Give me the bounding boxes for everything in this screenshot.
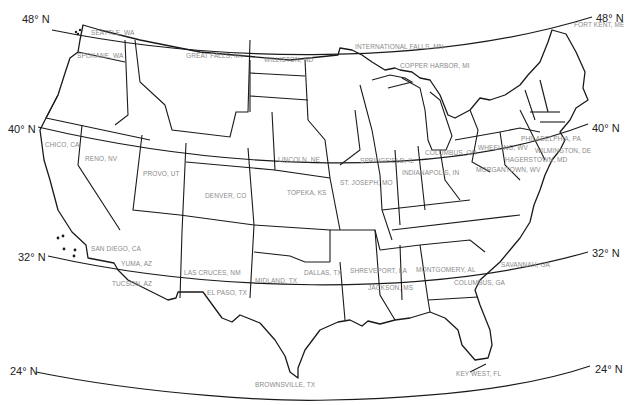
upper-peninsula <box>372 75 412 88</box>
city-label: WILMINGTON, DE <box>535 147 591 154</box>
city-label: GREAT FALLS, MT <box>186 52 244 59</box>
city-label: BROWNSVILLE, TX <box>255 381 315 388</box>
city-label: SPOKANE, WA <box>77 52 123 59</box>
latitude-label-left: 24° N <box>10 365 38 377</box>
city-label: SHREVEPORT, LA <box>350 267 407 274</box>
latitude-label-left: 48° N <box>22 13 50 25</box>
us-outline <box>40 25 588 378</box>
city-label: KEY WEST, FL <box>456 370 501 377</box>
city-label: TUCSON, AZ <box>112 280 152 287</box>
city-label: SEATTLE, WA <box>91 29 134 36</box>
city-label: WHEELING, WV <box>478 144 528 151</box>
city-label: MORGANTOWN, WV <box>476 166 540 173</box>
city-label: JACKSON, MS <box>368 284 413 291</box>
state-borders <box>46 40 565 320</box>
city-label: DENVER, CO <box>205 192 246 199</box>
city-label: FORT KENT, ME <box>574 21 625 28</box>
city-label: SAVANNAH, GA <box>501 261 550 268</box>
channel-islands <box>57 235 77 258</box>
michigan-outline <box>402 78 452 150</box>
us-map <box>0 0 631 405</box>
latitude-label-right: 24° N <box>595 363 623 375</box>
city-label: SAN DIEGO, CA <box>91 245 141 252</box>
latitude-label-left: 40° N <box>8 123 36 135</box>
city-label: TOPEKA, KS <box>287 189 327 196</box>
city-label: RENO, NV <box>85 155 117 162</box>
city-label: CHICO, CA <box>45 141 80 148</box>
city-label: COPPER HARBOR, MI <box>400 62 470 69</box>
city-label: ST. JOSEPH, MO <box>340 179 393 186</box>
city-label: COLUMBUS, GA <box>454 279 505 286</box>
latitude-label-left: 32° N <box>18 251 46 263</box>
city-label: SPRINGFIELD, IL <box>360 157 414 164</box>
city-label: LINCOLN, NE <box>278 156 320 163</box>
city-label: WILLISTON, ND <box>264 56 313 63</box>
city-label: COLUMBUS, OH <box>425 149 476 156</box>
latitude-label-right: 40° N <box>592 122 620 134</box>
city-label: PROVO, UT <box>143 170 180 177</box>
city-label: INTERNATIONAL FALLS, MN <box>355 43 444 50</box>
city-label: MIDLAND, TX <box>255 277 297 284</box>
city-label: PHILADELPHIA, PA <box>521 135 581 142</box>
city-label: INDIANAPOLIS, IN <box>402 169 459 176</box>
city-label: EL PASO, TX <box>207 289 247 296</box>
city-label: LAS CRUCES, NM <box>184 269 241 276</box>
city-label: DALLAS, TX <box>304 269 342 276</box>
city-label: YUMA, AZ <box>121 260 152 267</box>
city-label: MONTGOMERY, AL <box>416 266 476 273</box>
city-label: HAGERSTOWN, MD <box>505 156 567 163</box>
latitude-label-right: 32° N <box>592 247 620 259</box>
